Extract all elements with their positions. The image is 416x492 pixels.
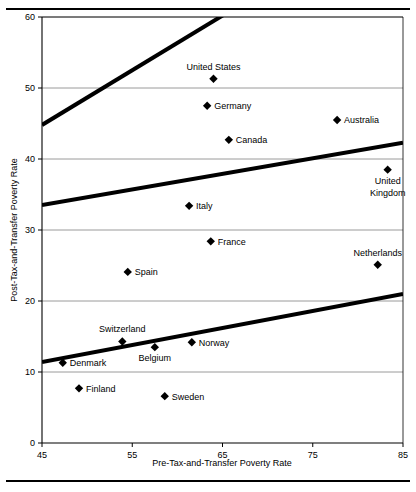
point-label: Belgium [139,353,172,363]
y-tick-label: 50 [25,83,35,93]
diamond-marker-icon [75,384,83,392]
diamond-marker-icon [383,165,391,173]
point-label: Sweden [172,392,205,402]
x-tick-label: 45 [37,450,47,460]
data-point: Finland [75,384,116,394]
middle-reference-line [42,143,403,205]
diamond-marker-icon [151,343,159,351]
data-point: Netherlands [353,248,402,269]
diamond-marker-icon [207,237,215,245]
x-tick-label: 55 [127,450,137,460]
data-point: Spain [124,267,158,277]
data-point: Sweden [161,392,205,402]
diamond-marker-icon [374,261,382,269]
point-label: France [218,237,246,247]
data-point: Canada [225,135,268,145]
y-tick-label: 0 [30,438,35,448]
y-tick-label: 60 [25,12,35,22]
point-label: Denmark [70,358,107,368]
point-label: Kingdom [370,188,406,198]
x-tick-label: 75 [308,450,318,460]
data-point: Italy [185,201,213,211]
y-tick-label: 40 [25,154,35,164]
point-label: Finland [86,384,116,394]
figure-container: 4555657585 0102030405060 United StatesGe… [0,0,416,492]
data-point: Australia [333,115,379,125]
top-divider-rule [6,8,410,10]
diamond-marker-icon [185,202,193,210]
diamond-marker-icon [225,136,233,144]
diamond-marker-icon [203,102,211,110]
diamond-marker-icon [188,338,196,346]
y-tick-label: 20 [25,296,35,306]
y-tick-group: 0102030405060 [25,12,42,448]
data-point: Norway [188,338,230,348]
point-label: Australia [344,115,379,125]
diamond-marker-icon [124,268,132,276]
point-label: Canada [236,135,268,145]
point-label: Norway [199,338,230,348]
reference-lines-group [42,0,403,362]
bottom-divider-rule [6,480,410,482]
data-point: Denmark [59,358,107,368]
point-label: Italy [196,201,213,211]
y-tick-label: 10 [25,367,35,377]
point-label: Germany [214,101,252,111]
data-point: Belgium [139,343,172,363]
data-point: UnitedKingdom [370,165,406,197]
diamond-marker-icon [209,75,217,83]
point-label: Switzerland [99,324,146,334]
point-label: United [375,176,401,186]
data-point: United States [186,62,241,83]
lower-reference-line [42,294,403,362]
point-label: Spain [135,267,158,277]
point-label: Netherlands [353,248,402,258]
data-point: Germany [203,101,252,111]
x-axis-title: Pre-Tax-and-Transfer Poverty Rate [152,458,292,468]
y-axis-title: Post-Tax-and-Transfer Poverty Rate [9,158,19,302]
x-tick-label: 85 [398,450,408,460]
point-label: United States [186,62,241,72]
data-point: France [207,237,246,247]
scatter-plot: 4555657585 0102030405060 United StatesGe… [0,0,416,492]
diamond-marker-icon [333,116,341,124]
y-tick-label: 30 [25,225,35,235]
diamond-marker-icon [161,392,169,400]
